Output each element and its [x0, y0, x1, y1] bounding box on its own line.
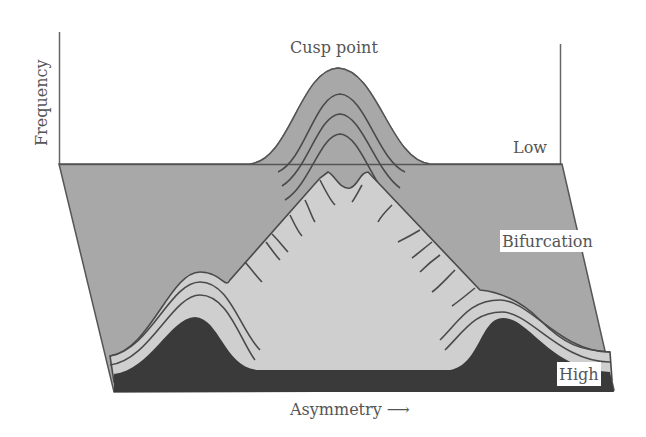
cusp-diagram: Cusp point Frequency Low Bifurcation Hig… — [0, 0, 646, 437]
high-label: High — [559, 365, 599, 384]
low-label: Low — [513, 138, 547, 157]
bifurcation-label: Bifurcation — [502, 232, 593, 251]
cusp-point-label: Cusp point — [290, 38, 378, 57]
asymmetry-label: Asymmetry ⟶ — [289, 400, 410, 419]
frequency-label: Frequency — [32, 59, 51, 146]
